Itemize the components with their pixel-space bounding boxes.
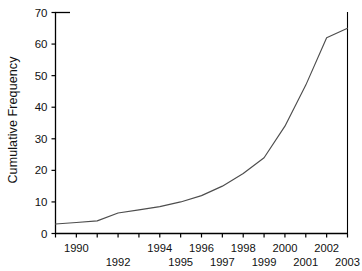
chart-figure: Cumulative Frequency 010203040506070 199… [0,0,362,271]
line-chart-plot: 010203040506070 199019941996199820002002… [0,0,362,271]
x-tick-label: 2000 [272,242,297,254]
x-tick-label: 1997 [210,256,235,268]
x-tick-label: 2001 [293,256,318,268]
x-tick-label: 1990 [64,242,89,254]
y-tick-group: 010203040506070 [35,7,56,240]
y-tick-label: 70 [35,7,48,19]
x-tick-label: 1996 [189,242,214,254]
y-tick-label: 20 [35,164,48,176]
y-tick-label: 50 [35,70,48,82]
x-tick-label-group: 1990199419961998200020021992199519971999… [64,242,360,268]
y-tick-label: 40 [35,101,48,113]
y-tick-label: 60 [35,38,48,50]
x-tick-label: 2002 [314,242,339,254]
y-tick-label: 10 [35,196,48,208]
y-tick-label: 0 [41,228,47,240]
x-tick-label: 2003 [335,256,360,268]
y-tick-label: 30 [35,133,48,145]
x-tick-label: 1992 [106,256,131,268]
cumulative-frequency-line [56,28,348,224]
axis-spines [55,12,348,234]
x-tick-label: 1995 [168,256,193,268]
x-tick-label: 1999 [252,256,277,268]
x-tick-label: 1998 [231,242,256,254]
x-tick-label: 1994 [147,242,172,254]
